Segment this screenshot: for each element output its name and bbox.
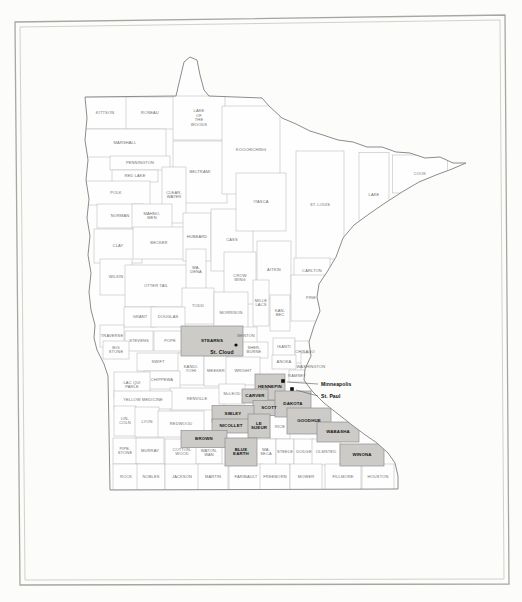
county-label: FARIBAULT [235,474,258,479]
county-label: DAKOTA [283,401,303,406]
county-label: CARLTON [302,268,322,273]
county-label: COOK [414,171,427,176]
county-label: RENVILLE [187,396,208,401]
county-label: CROWWING [233,273,246,283]
city-label: St. Paul [321,393,341,399]
county-label: MOWER [298,474,315,479]
county-label: ROSEAU [141,110,159,115]
county-label: BLUEEARTH [233,447,249,457]
county-label: KAN-BEC [275,308,286,318]
county-label: LYON [141,419,152,424]
county-label: WASHINGTON [297,364,326,369]
county-label: WRIGHT [234,368,252,373]
county-label: YELLOW MEDICINE [123,397,163,402]
county-label: KITTSON [96,110,114,115]
county-label: NORMAN [111,213,130,218]
county-label: ISANTI [277,344,291,349]
county-label: DOUGLAS [158,314,179,319]
county-label: STEELE [277,449,293,454]
county-label: POLK [110,190,121,195]
county-label: SCOTT [261,405,277,410]
county-label: PIPE-STONE [118,446,133,456]
county-label: BROWN [195,436,213,441]
county-label: MEEKER [207,368,225,373]
county-label: BECKER [150,240,167,245]
county-label: STEVENS [129,338,149,343]
county-label: RED LAKE [125,173,146,178]
county-label: ITASCA [253,199,268,204]
county-cells-layer [82,96,448,490]
county-label: TRAVERSE [101,333,124,338]
city-label: St. Cloud [210,349,233,355]
city-label: Minneapolis [321,381,352,387]
county-label: CLAY [113,243,124,248]
county-label: TODD [192,303,204,308]
county-label: SHER-BURNE [247,345,262,355]
county-label: CASS [226,237,238,242]
county-label: ANOKA [277,359,292,364]
county-label: CLEAR-WATER [166,190,182,200]
county-label: McLEOD [223,391,240,396]
county-label: GRANT [133,314,148,319]
county-label: SWIFT [151,359,165,364]
county-label: HUBBARD [187,234,208,239]
county-label: JACKSON [172,474,192,479]
county-label: HENNEPIN [258,384,282,389]
county-label: RICE [275,424,285,429]
city-marker-square [290,387,294,391]
county-label: ST. LOUIS [310,202,330,207]
county-label: RAMSEY [288,373,306,378]
county-label: AITKIN [267,267,281,272]
county-label: CARVER [245,393,265,398]
city-marker-square [281,379,285,383]
county-label: MORRISON [219,310,242,315]
county-label: WINONA [352,452,372,457]
county-label: CHIPPEWA [151,377,174,382]
county-label: MARTIN [205,474,221,479]
county-label: SIBLEY [225,411,242,416]
county-label: ROCK [120,474,132,479]
county-label: WILKIN [109,274,124,279]
county-label: REDWOOD [170,421,192,426]
county-label: MARSHALL [114,140,137,145]
county-label: OLMSTED [316,449,336,454]
county-label: GOODHUE [297,418,321,423]
county-label: LAC QUIPARLE [123,380,140,390]
county-label: MURRAY [141,448,159,453]
county-label: FILLMORE [332,474,353,479]
county-label: PENNINGTON [126,160,154,165]
county-label: KOOCHICHING [236,147,266,152]
county-label: BENTON [237,333,255,338]
county-label: DODGE [296,449,312,454]
scanned-page: KITTSONROSEAULAKEOFTHEWOODSMARSHALLPENNI… [0,0,522,602]
county-label: LAKE [369,192,380,197]
county-label: POPE [164,338,176,343]
county-label: NICOLLET [219,423,242,428]
county-label: NOBLES [142,474,159,479]
county-label: MILLELACS [255,298,267,308]
county-label: CHISAGO [295,349,315,354]
county-label: BELTRAMI [190,169,211,174]
county-label: WABASHA [326,429,350,434]
county-label: FREEBORN [263,474,286,479]
city-marker-dot [234,343,237,346]
county-label: HOUSTON [368,474,389,479]
county-label: OTTER TAIL [144,283,169,288]
county-label: PINE [306,295,316,300]
county-label: STEARNS [201,338,223,343]
minnesota-county-map: KITTSONROSEAULAKEOFTHEWOODSMARSHALLPENNI… [0,0,522,602]
